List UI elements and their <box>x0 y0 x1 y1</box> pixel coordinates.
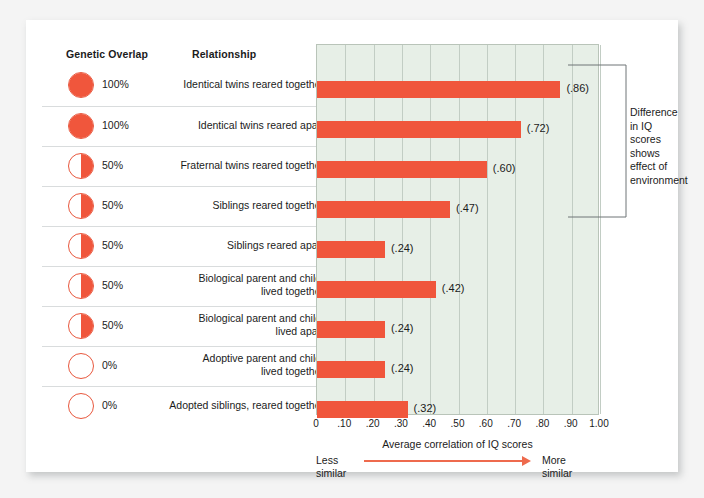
circle-outline <box>68 153 94 179</box>
x-axis-tick-label: .90 <box>564 418 578 429</box>
genetic-overlap-percent: 50% <box>102 199 123 211</box>
bar <box>317 161 487 178</box>
column-header-relationship: Relationship <box>192 48 256 60</box>
axis-end-label-less: Less similar <box>316 454 346 480</box>
genetic-overlap-percent: 0% <box>102 359 117 371</box>
x-axis-title: Average correlation of IQ scores <box>316 438 599 450</box>
table-row: 0%Adoptive parent and child,lived togeth… <box>42 346 330 387</box>
x-axis-tick-label: 1.00 <box>589 418 608 429</box>
table-row: 50%Biological parent and child,lived apa… <box>42 306 330 347</box>
relationship-label: Biological parent and child,lived apart <box>134 312 324 337</box>
x-axis-tick-label: .80 <box>535 418 549 429</box>
circle-fill-half <box>81 273 94 299</box>
circle-fill-half <box>81 193 94 219</box>
circle-outline <box>68 72 94 98</box>
genetic-overlap-circle-icon <box>68 233 96 261</box>
gridline <box>459 45 460 414</box>
gridline <box>345 45 346 414</box>
page-background: Genetic Overlap Relationship 100%Identic… <box>0 0 704 498</box>
bar-value-label: (.47) <box>456 202 479 214</box>
bar <box>317 121 521 138</box>
gridline <box>430 45 431 414</box>
genetic-overlap-circle-icon <box>68 193 96 221</box>
circle-outline <box>68 113 94 139</box>
annotation-label: Difference in IQ scores shows effect of … <box>630 106 686 187</box>
bar-value-label: (.72) <box>527 122 550 134</box>
relationship-label: Identical twins reared apart <box>134 119 324 132</box>
table-row: 50%Biological parent and child,lived tog… <box>42 266 330 307</box>
bar <box>317 241 385 258</box>
x-axis-ticks: 0.10.20.30.40.50.60.70.80.901.00 <box>316 418 636 432</box>
circle-fill-full <box>68 72 94 98</box>
x-axis-tick-label: .70 <box>507 418 521 429</box>
relationship-label-line1: Adopted siblings, reared together <box>134 399 324 412</box>
gridline <box>374 45 375 414</box>
relationship-label-line1: Siblings reared together <box>134 199 324 212</box>
less-similar-line1: Less <box>316 454 346 467</box>
genetic-overlap-percent: 100% <box>102 119 129 131</box>
relationship-label: Biological parent and child,lived togeth… <box>134 272 324 297</box>
circle-outline <box>68 393 94 419</box>
x-axis-tick-label: 0 <box>313 418 319 429</box>
bar <box>317 401 408 418</box>
x-axis-tick-label: .30 <box>394 418 408 429</box>
circle-fill-half <box>81 313 94 339</box>
relationship-table: Genetic Overlap Relationship 100%Identic… <box>42 34 330 454</box>
bar <box>317 281 436 298</box>
genetic-overlap-percent: 50% <box>102 159 123 171</box>
gridline <box>543 45 544 414</box>
similarity-scale: Less similar More similar <box>316 454 636 484</box>
table-row: 50%Siblings reared together <box>42 186 330 227</box>
direction-arrow-line <box>364 460 524 462</box>
column-header-genetic-overlap: Genetic Overlap <box>66 48 148 60</box>
genetic-overlap-circle-icon <box>68 72 96 100</box>
relationship-label-line1: Biological parent and child, <box>134 272 324 285</box>
bar-value-label: (.24) <box>391 322 414 334</box>
gridline <box>515 45 516 414</box>
less-similar-line2: similar <box>316 467 346 480</box>
relationship-label-line1: Siblings reared apart <box>134 239 324 252</box>
relationship-label: Identical twins reared together <box>134 78 324 91</box>
relationship-label-line1: Fraternal twins reared together <box>134 159 324 172</box>
genetic-overlap-circle-icon <box>68 313 96 341</box>
relationship-label-line2: lived apart <box>134 325 324 338</box>
genetic-overlap-percent: 100% <box>102 78 129 90</box>
circle-fill-half <box>81 153 94 179</box>
circle-outline <box>68 313 94 339</box>
genetic-overlap-circle-icon <box>68 273 96 301</box>
gridline <box>487 45 488 414</box>
circle-outline <box>68 193 94 219</box>
circle-outline <box>68 273 94 299</box>
bar-value-label: (.42) <box>442 282 465 294</box>
bar <box>317 321 385 338</box>
table-row: 0%Adopted siblings, reared together <box>42 386 330 427</box>
bar-value-label: (.24) <box>391 362 414 374</box>
x-axis-tick-label: .40 <box>422 418 436 429</box>
genetic-overlap-circle-icon <box>68 393 96 421</box>
relationship-label: Adoptive parent and child,lived together <box>134 352 324 377</box>
table-row: 100%Identical twins reared together <box>42 66 330 106</box>
relationship-label: Siblings reared apart <box>134 239 324 252</box>
relationship-label: Siblings reared together <box>134 199 324 212</box>
figure-card: Genetic Overlap Relationship 100%Identic… <box>26 20 678 472</box>
relationship-label-line1: Identical twins reared apart <box>134 119 324 132</box>
circle-outline <box>68 233 94 259</box>
circle-fill-full <box>68 113 94 139</box>
genetic-overlap-circle-icon <box>68 353 96 381</box>
genetic-overlap-circle-icon <box>68 153 96 181</box>
genetic-overlap-percent: 0% <box>102 399 117 411</box>
relationship-label-line1: Adoptive parent and child, <box>134 352 324 365</box>
axis-end-label-more: More similar <box>542 454 572 480</box>
bar <box>317 361 385 378</box>
circle-fill-half <box>81 233 94 259</box>
relationship-label-line2: lived together <box>134 285 324 298</box>
table-row: 100%Identical twins reared apart <box>42 106 330 147</box>
direction-arrow-head-icon <box>522 456 531 466</box>
x-axis-tick-label: .60 <box>479 418 493 429</box>
bar-value-label: (.32) <box>414 402 437 414</box>
x-axis-tick-label: .20 <box>366 418 380 429</box>
gridline <box>402 45 403 414</box>
more-similar-line2: similar <box>542 467 572 480</box>
genetic-overlap-circle-icon <box>68 113 96 141</box>
relationship-label: Adopted siblings, reared together <box>134 399 324 412</box>
